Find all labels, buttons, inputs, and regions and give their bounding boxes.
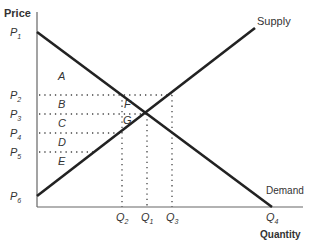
quantity-label-q1: Q1 — [141, 211, 154, 225]
supply-label: Supply — [257, 15, 291, 27]
area-label-c: C — [58, 117, 66, 129]
quantity-label-q3: Q3 — [166, 211, 179, 225]
quantity-labels: Q2 Q1 Q3 Q4 — [116, 211, 279, 225]
area-label-e: E — [58, 155, 66, 167]
price-labels: P1 P2 P3 P4 P5 P6 — [10, 26, 21, 204]
price-label-p3: P3 — [10, 108, 21, 122]
price-label-p6: P6 — [10, 190, 21, 204]
area-label-d: D — [58, 136, 66, 148]
area-label-a: A — [57, 70, 65, 82]
y-axis-label: Price — [4, 7, 31, 19]
quantity-label-q4: Q4 — [266, 211, 279, 225]
x-axis-label: Quantity — [260, 229, 301, 240]
price-label-p5: P5 — [10, 146, 21, 160]
area-label-g: G — [123, 114, 132, 126]
price-label-p4: P4 — [10, 127, 21, 141]
price-label-p1: P1 — [10, 26, 21, 40]
demand-curve — [37, 32, 272, 207]
area-label-f: F — [124, 98, 132, 110]
dotted-guides — [39, 95, 172, 207]
demand-label: Demand — [266, 185, 304, 196]
price-label-p2: P2 — [10, 89, 21, 103]
area-label-b: B — [58, 98, 65, 110]
quantity-label-q2: Q2 — [116, 211, 129, 225]
supply-demand-diagram: Price Quantity Supply Demand P1 P2 P3 P4… — [0, 0, 309, 250]
